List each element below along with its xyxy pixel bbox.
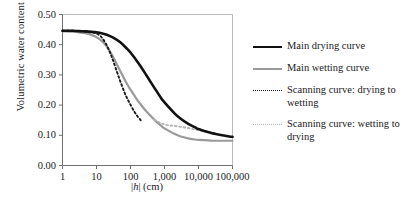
y-tick-marks <box>59 15 63 166</box>
data-series-group <box>63 31 233 141</box>
legend-label: Scanning curve: drying to wetting <box>287 84 405 109</box>
retention-curve-figure: Volumetric water content (–) 0.000.100.2… <box>0 0 411 199</box>
series-line <box>63 31 233 140</box>
legend-line-swatch <box>252 119 282 131</box>
axis-frame <box>63 15 233 166</box>
legend-label: Scanning curve: wetting to drying <box>287 118 405 143</box>
legend-entry: Main wetting curve <box>252 62 410 75</box>
series-line <box>63 31 141 120</box>
legend-entry: Scanning curve: wetting to drying <box>252 118 410 143</box>
legend-label: Main drying curve <box>287 40 365 53</box>
legend-line-swatch <box>252 85 282 97</box>
legend-line-swatch <box>252 63 282 75</box>
legend-entry: Scanning curve: drying to wetting <box>252 84 410 109</box>
legend-swatch-line <box>253 90 282 91</box>
legend-swatch-line <box>253 46 282 48</box>
legend-entry: Main drying curve <box>252 40 410 53</box>
chart-legend: Main drying curveMain wetting curveScann… <box>252 40 410 152</box>
x-tick-marks <box>63 166 233 170</box>
legend-swatch-line <box>253 124 282 125</box>
series-line <box>63 31 233 137</box>
legend-label: Main wetting curve <box>287 62 369 75</box>
legend-line-swatch <box>252 41 282 53</box>
legend-swatch-line <box>253 68 282 70</box>
